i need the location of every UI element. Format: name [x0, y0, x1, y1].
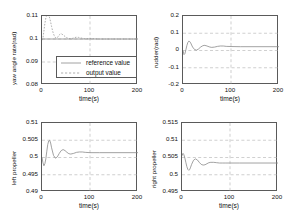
xtick-left-prop-1: 100: [81, 194, 97, 200]
xtick-rudder-2: 200: [270, 87, 285, 93]
ytick-right-prop-1: 0.5: [153, 171, 178, 177]
xtick-right-prop-1: 100: [221, 194, 237, 200]
figure-canvas: yaw angle rate(rad) 0.11 0.1 0.09 0.08: [0, 0, 285, 216]
plot-lines-right-propeller: [182, 123, 278, 192]
axis-label-x-left-propeller: time(s): [61, 203, 117, 210]
ytick-left-prop-1: 0.495: [13, 171, 38, 177]
ytick-rudder-4: 0.2: [157, 12, 179, 18]
xtick-left-prop-0: 0: [33, 194, 49, 200]
xtick-yaw-1: 100: [81, 87, 97, 93]
subplot-yaw-angle-rate: yaw angle rate(rad) 0.11 0.1 0.09 0.08: [0, 0, 143, 108]
subplot-rudder: rudder(rad) 0.2 0.1 0 -0.1 -0.2 0 100 20…: [143, 0, 285, 108]
plot-area-right-propeller: [181, 122, 277, 191]
ytick-rudder-3: 0.1: [157, 29, 179, 35]
ytick-yaw-3: 0.11: [15, 12, 38, 18]
ytick-yaw-2: 0.1: [15, 35, 38, 41]
legend-label-reference: reference value: [86, 60, 130, 66]
ytick-left-prop-2: 0.5: [13, 153, 38, 159]
xtick-yaw-0: 0: [33, 87, 49, 93]
axis-label-x-yaw: time(s): [61, 96, 117, 103]
legend-yaw: reference value output value: [56, 56, 137, 78]
legend-entry-output: output value: [57, 68, 136, 78]
legend-label-output: output value: [86, 70, 121, 76]
subplot-right-propeller: right propeller 0.515 0.51 0.505 0.5 0.4…: [143, 108, 285, 216]
xtick-right-prop-2: 200: [269, 194, 285, 200]
ytick-right-prop-2: 0.505: [153, 153, 178, 159]
plot-lines-rudder: [183, 16, 279, 85]
legend-sample-reference: [60, 59, 82, 67]
axis-label-x-rudder: time(s): [202, 96, 258, 103]
ytick-right-prop-4: 0.515: [153, 119, 178, 125]
ytick-rudder-2: 0: [157, 46, 179, 52]
plot-area-yaw: reference value output value: [41, 15, 137, 84]
plot-area-rudder: [182, 15, 278, 84]
xtick-rudder-0: 0: [174, 87, 190, 93]
xtick-right-prop-0: 0: [173, 194, 189, 200]
ytick-left-prop-4: 0.51: [13, 119, 38, 125]
ytick-right-prop-3: 0.51: [153, 136, 178, 142]
ytick-yaw-1: 0.09: [15, 58, 38, 64]
plot-area-left-propeller: [41, 122, 137, 191]
legend-entry-reference: reference value: [57, 58, 136, 68]
legend-sample-output: [60, 69, 82, 77]
axis-label-x-right-propeller: time(s): [201, 203, 257, 210]
plot-lines-left-propeller: [42, 123, 138, 192]
subplot-left-propeller: left propeller 0.51 0.505 0.5 0.495 0.49…: [0, 108, 143, 216]
ytick-left-prop-3: 0.505: [13, 136, 38, 142]
ytick-rudder-1: -0.1: [157, 64, 179, 70]
xtick-rudder-1: 100: [222, 87, 238, 93]
